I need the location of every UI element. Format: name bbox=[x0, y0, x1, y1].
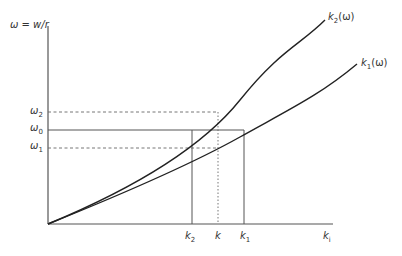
x-axis-label: ki bbox=[323, 230, 331, 244]
k1-curve-label: k1(ω) bbox=[361, 57, 388, 71]
k1-curve bbox=[48, 64, 357, 224]
omega0-label: ω0 bbox=[30, 122, 43, 136]
omega1-label: ω1 bbox=[30, 140, 43, 154]
omega2-label: ω2 bbox=[30, 105, 43, 119]
k2-curve-label: k2(ω) bbox=[328, 11, 355, 25]
k2-curve bbox=[48, 20, 325, 224]
k-tick-label: k bbox=[215, 230, 222, 241]
dispersion-diagram: ω = w/r k2(ω) k1(ω) ω2 ω0 ω1 k2 k k1 ki bbox=[0, 0, 402, 256]
k1-tick-label: k1 bbox=[240, 230, 250, 244]
k2-tick-label: k2 bbox=[185, 230, 195, 244]
y-axis-label: ω = w/r bbox=[10, 19, 50, 30]
